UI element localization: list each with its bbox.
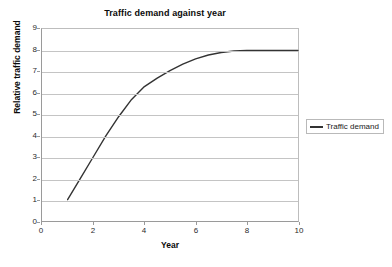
line-swatch-icon <box>310 126 323 128</box>
x-tick-mark <box>196 222 197 225</box>
y-tick-label: 5 <box>7 110 37 118</box>
y-tick-label: 7 <box>7 67 37 75</box>
x-tick-label: 4 <box>132 226 156 235</box>
y-tick-label: 1 <box>7 196 37 204</box>
plot-area <box>41 28 299 222</box>
gridline <box>42 201 298 202</box>
chart-title: Traffic demand against year <box>0 8 330 18</box>
y-tick-mark <box>37 50 40 51</box>
y-tick-label: 9 <box>7 24 37 32</box>
gridline <box>42 158 298 159</box>
y-axis-tick-labels: 0123456789 <box>0 28 37 222</box>
chart-container: Traffic demand against year Relative tra… <box>0 0 392 267</box>
x-tick-label: 10 <box>287 226 311 235</box>
x-tick-mark <box>247 222 248 225</box>
x-axis-tick-labels: 0246810 <box>41 226 299 238</box>
y-tick-mark <box>37 136 40 137</box>
y-tick-mark <box>37 157 40 158</box>
x-tick-label: 8 <box>235 226 259 235</box>
gridline <box>42 72 298 73</box>
series-line-traffic-demand <box>42 29 298 221</box>
y-tick-mark <box>37 200 40 201</box>
y-tick-mark <box>37 71 40 72</box>
x-tick-label: 6 <box>184 226 208 235</box>
y-tick-mark <box>37 28 40 29</box>
y-tick-label: 2 <box>7 175 37 183</box>
y-tick-label: 6 <box>7 89 37 97</box>
y-tick-mark <box>37 222 40 223</box>
gridline <box>42 51 298 52</box>
y-tick-label: 8 <box>7 46 37 54</box>
y-tick-label: 4 <box>7 132 37 140</box>
y-tick-label: 3 <box>7 153 37 161</box>
x-tick-label: 2 <box>81 226 105 235</box>
x-axis-title: Year <box>41 240 299 250</box>
gridline <box>42 137 298 138</box>
gridline <box>42 115 298 116</box>
x-tick-mark <box>299 222 300 225</box>
y-tick-mark <box>37 93 40 94</box>
gridline <box>42 180 298 181</box>
x-tick-mark <box>93 222 94 225</box>
x-tick-mark <box>144 222 145 225</box>
y-tick-label: 0 <box>7 218 37 226</box>
y-tick-mark <box>37 114 40 115</box>
x-tick-label: 0 <box>29 226 53 235</box>
gridline <box>42 94 298 95</box>
y-tick-mark <box>37 179 40 180</box>
x-tick-mark <box>41 222 42 225</box>
chart-legend: Traffic demand <box>306 119 384 134</box>
legend-item-label: Traffic demand <box>326 122 379 131</box>
